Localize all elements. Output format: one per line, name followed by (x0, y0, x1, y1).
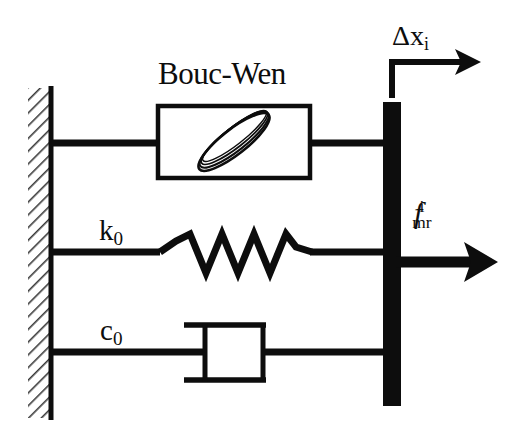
displacement-arrow-elbow (392, 62, 462, 98)
bouc-wen-branch (51, 104, 389, 179)
wall-hatch-area (28, 88, 50, 418)
displacement-arrow-group (392, 49, 481, 98)
spring-coil (160, 234, 312, 273)
bouc-wen-model-diagram: Bouc-Wen k0 c0 Δxi fimr (0, 0, 516, 438)
schematic-drawing (0, 0, 516, 438)
spring-branch (51, 234, 389, 273)
fixed-wall-group (28, 86, 51, 420)
force-arrow-group (396, 242, 498, 282)
moving-rigid-bar (383, 102, 401, 406)
damper-branch (51, 323, 389, 382)
